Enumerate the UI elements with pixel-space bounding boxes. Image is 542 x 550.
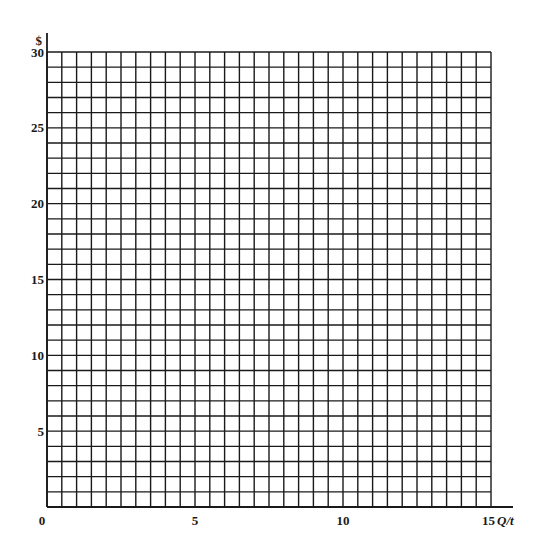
x-tick-label: 5 <box>192 513 199 528</box>
x-tick-label: 10 <box>337 513 350 528</box>
x-tick-label: 0 <box>39 513 46 528</box>
y-tick-label: 25 <box>31 120 45 135</box>
x-tick-labels: 051015 <box>39 513 496 528</box>
y-axis-title: $ <box>36 33 43 48</box>
grid-lines <box>47 52 491 507</box>
y-tick-label: 15 <box>31 272 45 287</box>
blank-grid-chart: 51015202530 051015 $ Q/t <box>0 0 542 550</box>
y-tick-label: 5 <box>38 424 45 439</box>
y-tick-labels: 51015202530 <box>31 45 45 439</box>
axes <box>47 33 513 507</box>
y-tick-label: 20 <box>31 196 44 211</box>
y-tick-label: 10 <box>31 348 44 363</box>
x-axis-title: Q/t <box>497 513 514 528</box>
x-tick-label: 15 <box>482 513 496 528</box>
